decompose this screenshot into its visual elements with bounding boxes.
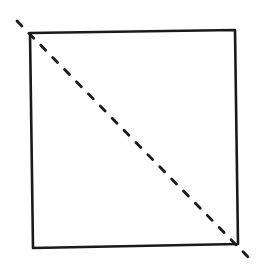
background: [0, 0, 267, 275]
diagram-canvas: [0, 0, 267, 275]
square-with-diagonal-diagram: [0, 0, 267, 275]
